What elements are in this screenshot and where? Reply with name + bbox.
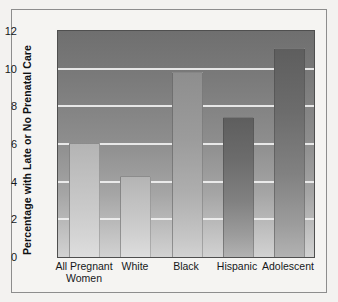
bar bbox=[69, 143, 100, 257]
bar bbox=[223, 117, 254, 257]
x-tick-label: Adolescent bbox=[248, 261, 328, 273]
y-tick-label: 2 bbox=[0, 213, 17, 225]
figure: 024681012 Percentage with Late or No Pre… bbox=[0, 0, 338, 302]
y-tick-label: 12 bbox=[0, 25, 17, 37]
y-tick-label: 10 bbox=[0, 63, 17, 75]
y-tick-label: 0 bbox=[0, 251, 17, 263]
x-tick-line: Adolescent bbox=[248, 261, 328, 273]
y-tick-label: 4 bbox=[0, 176, 17, 188]
x-tick-line: Women bbox=[44, 273, 124, 285]
bar bbox=[120, 176, 151, 257]
y-tick-label: 6 bbox=[0, 138, 17, 150]
bar bbox=[274, 48, 305, 257]
plot-area bbox=[57, 30, 315, 258]
y-tick-label: 8 bbox=[0, 100, 17, 112]
y-axis-label: Percentage with Late or No Prenatal Care bbox=[21, 45, 33, 255]
bar bbox=[172, 72, 203, 257]
